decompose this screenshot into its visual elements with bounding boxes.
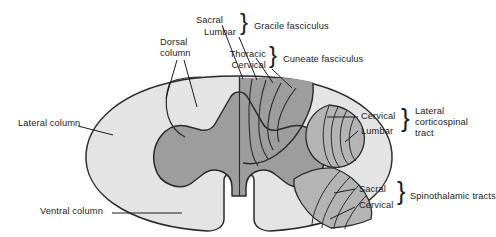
label-cervical-spinothalamic: Cervical: [359, 200, 393, 211]
label-dorsal-column-line2: column: [160, 48, 191, 59]
brace-cuneate-fasciculus: }: [269, 44, 277, 66]
label-lct-line3: tract: [415, 128, 434, 139]
brace-gracile-fasciculus: }: [240, 11, 248, 33]
brace-lateral-corticospinal-tract: }: [401, 106, 410, 130]
leader-sacral-stt: [334, 189, 355, 193]
edge-artifact: [459, 186, 477, 234]
label-lateral-column: Lateral column: [18, 118, 80, 129]
label-dorsal-column-line1: Dorsal: [160, 37, 187, 48]
label-thoracic-cuneate: Thoracic: [190, 49, 266, 60]
label-gracile-fasciculus: Gracile fasciculus: [254, 21, 329, 32]
label-cervical-corticospinal: Cervical: [361, 111, 395, 122]
label-sacral-spinothalamic: Sacral: [359, 184, 386, 195]
leader-cervical-stt: [330, 207, 355, 219]
label-lct-line2: corticospinal: [415, 117, 468, 128]
brace-spinothalamic-tracts: }: [397, 180, 405, 203]
label-lumbar-gracile: Lumbar: [165, 27, 236, 38]
label-lct-line1: Lateral: [415, 106, 444, 117]
label-spinothalamic-tracts: Spinothalamic tracts: [410, 191, 496, 202]
leader-cervical-top: [272, 69, 292, 88]
leader-lateral-column: [78, 126, 113, 135]
label-lumbar-corticospinal: Lumbar: [361, 126, 393, 137]
leader-dorsal-column-a: [166, 60, 177, 98]
label-cervical-cuneate: Cervical: [190, 60, 266, 71]
label-cuneate-fasciculus: Cuneate fasciculus: [283, 54, 363, 65]
leader-lumbar-cst: [345, 131, 358, 142]
label-ventral-column: Ventral column: [40, 206, 103, 217]
label-sacral-gracile: Sacral: [165, 15, 223, 26]
